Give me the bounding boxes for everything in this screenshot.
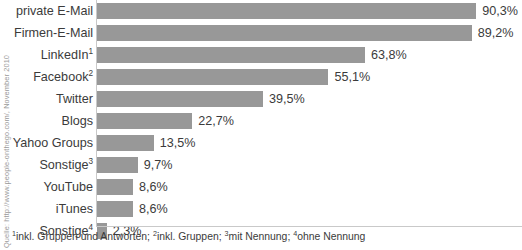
bar-row: Firmen-E-Mail89,2% — [0, 22, 522, 44]
category-label: Yahoo Groups — [0, 132, 93, 154]
category-label: LinkedIn1 — [0, 44, 93, 66]
bar — [97, 69, 328, 85]
bar-row: Facebook255,1% — [0, 66, 522, 88]
bar-chart: Quelle: http://www.people-onthego.com/, … — [0, 0, 522, 250]
bar-value-label: 39,5% — [269, 88, 305, 110]
bar-value-label: 8,6% — [139, 198, 168, 220]
bar-row: Yahoo Groups13,5% — [0, 132, 522, 154]
category-label: Sonstige3 — [0, 154, 93, 176]
bar-row: Sonstige39,7% — [0, 154, 522, 176]
bar-value-label: 55,1% — [334, 66, 370, 88]
bar — [97, 201, 133, 217]
bar-row: iTunes8,6% — [0, 198, 522, 220]
footnote-marker: 2 — [88, 69, 93, 78]
bar — [97, 179, 133, 195]
footnote-text: ohne Nennung — [297, 231, 365, 242]
bar — [97, 135, 154, 151]
bar — [97, 91, 263, 107]
bar-row: private E-Mail90,3% — [0, 0, 522, 22]
category-label: YouTube — [0, 176, 93, 198]
footnote-text: inkl. Gruppen; — [157, 231, 225, 242]
bar-row: LinkedIn163,8% — [0, 44, 522, 66]
footnote-marker: 1 — [88, 47, 93, 56]
bar — [97, 25, 472, 41]
bar-value-label: 8,6% — [139, 176, 168, 198]
category-axis-line — [97, 226, 522, 227]
bar — [97, 113, 192, 129]
plot-area: private E-Mail90,3%Firmen-E-Mail89,2%Lin… — [0, 0, 522, 227]
bar-value-label: 63,8% — [371, 44, 407, 66]
footnote-marker: 3 — [88, 157, 93, 166]
footnote-text: mit Nennung; — [228, 231, 293, 242]
bar-value-label: 89,2% — [478, 22, 514, 44]
footnote-line: 1inkl. Gruppen und Antworten; 2inkl. Gru… — [12, 231, 365, 242]
bar-value-label: 13,5% — [160, 132, 196, 154]
category-label: Twitter — [0, 88, 93, 110]
category-label: Firmen-E-Mail — [0, 22, 93, 44]
bar-value-label: 9,7% — [144, 154, 173, 176]
bar-row: YouTube8,6% — [0, 176, 522, 198]
category-label: Blogs — [0, 110, 93, 132]
bar-row: Blogs22,7% — [0, 110, 522, 132]
bar-value-label: 22,7% — [198, 110, 234, 132]
category-label: Facebook2 — [0, 66, 93, 88]
bar — [97, 3, 476, 19]
category-label: iTunes — [0, 198, 93, 220]
bar-value-label: 90,3% — [482, 0, 518, 22]
footnote-text: inkl. Gruppen und Antworten; — [16, 231, 153, 242]
category-label: private E-Mail — [0, 0, 93, 22]
bar-row: Twitter39,5% — [0, 88, 522, 110]
bar — [97, 47, 365, 63]
bar — [97, 157, 138, 173]
